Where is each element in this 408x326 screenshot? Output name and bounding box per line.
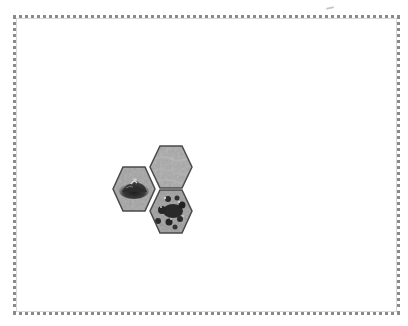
screen-smudge xyxy=(326,6,334,10)
forest-tile-icon xyxy=(149,189,193,234)
tile-forest[interactable] xyxy=(149,189,193,233)
game-stage xyxy=(0,0,408,326)
hex-map-board[interactable] xyxy=(13,15,400,315)
